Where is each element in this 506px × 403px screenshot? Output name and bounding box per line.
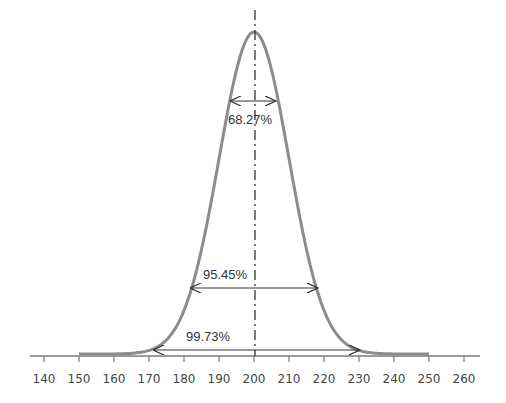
normal-distribution-chart: 140150160170180190200210220230240250260 … [0,0,506,403]
sigma2-label: 95.45% [203,267,248,282]
x-tick-label: 150 [68,372,91,386]
x-tick-label: 190 [208,372,231,386]
x-tick-label: 180 [173,372,196,386]
x-tick-label: 160 [103,372,126,386]
x-tick-label: 250 [418,372,441,386]
sigma3-label: 99.73% [186,329,231,344]
x-tick-label: 230 [348,372,371,386]
x-tick-label: 240 [383,372,406,386]
normal-curve [79,32,429,354]
x-tick-label: 210 [278,372,301,386]
x-tick-label: 200 [243,372,266,386]
x-axis-tick-labels: 140150160170180190200210220230240250260 [33,372,476,386]
x-tick-label: 140 [33,372,56,386]
x-tick-label: 170 [138,372,161,386]
x-axis-ticks [44,356,464,362]
x-tick-label: 220 [313,372,336,386]
x-tick-label: 260 [453,372,476,386]
sigma1-label: 68.27% [228,112,273,127]
